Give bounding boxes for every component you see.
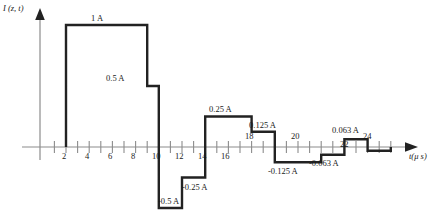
x-axis-label: t(μ s) (409, 151, 427, 161)
x-tick-label-20: 20 (291, 131, 300, 141)
amplitude-label-1a: 1 A (91, 13, 103, 23)
x-tick-label-18: 18 (245, 131, 254, 141)
y-axis-label: I (z, t) (3, 3, 24, 13)
amplitude-label-0p063a: 0.063 A (332, 125, 359, 135)
x-tick-label-16: 16 (221, 151, 230, 161)
amplitude-label-neg0p125a: -0.125 A (268, 166, 298, 176)
x-tick-label-8: 8 (131, 151, 135, 161)
waveform-trace (66, 25, 391, 208)
amplitude-label-neg0p25a: -0.25 A (182, 182, 208, 192)
x-axis (22, 142, 418, 152)
amplitude-label-0p5a: 0.5 A (106, 73, 124, 83)
y-axis (35, 8, 45, 160)
x-tick-label-2: 2 (62, 151, 66, 161)
amplitude-label-0p25a: 0.25 A (209, 104, 232, 114)
x-tick-label-6: 6 (108, 151, 112, 161)
x-tick-label-24: 24 (363, 131, 372, 141)
y-axis-arrow (35, 8, 45, 20)
x-tick-label-14: 14 (198, 151, 207, 161)
amplitude-label-0p125a: 0.125 A (249, 120, 276, 130)
x-tick-label-10: 10 (152, 151, 161, 161)
chart-canvas: I (z, t) t(μ s) 2 4 6 8 10 12 14 16 18 2… (0, 0, 438, 217)
amplitude-label-neg0p063a: -0.063 A (309, 158, 339, 168)
x-tick-label-4: 4 (85, 151, 89, 161)
amplitude-label-neg0p5a: -0.5 A (158, 196, 179, 206)
x-tick-label-12: 12 (175, 151, 184, 161)
x-tick-label-22: 22 (340, 139, 349, 149)
